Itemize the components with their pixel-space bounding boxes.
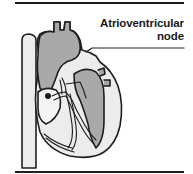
label-line-2: node	[100, 30, 184, 43]
vena-cava	[22, 34, 36, 168]
av-node	[46, 94, 50, 98]
bottom-rule	[15, 171, 184, 173]
label-line-1: Atrioventricular	[100, 17, 184, 30]
label-leader-line	[86, 48, 184, 52]
structure-label: Atrioventricular node	[100, 17, 184, 43]
